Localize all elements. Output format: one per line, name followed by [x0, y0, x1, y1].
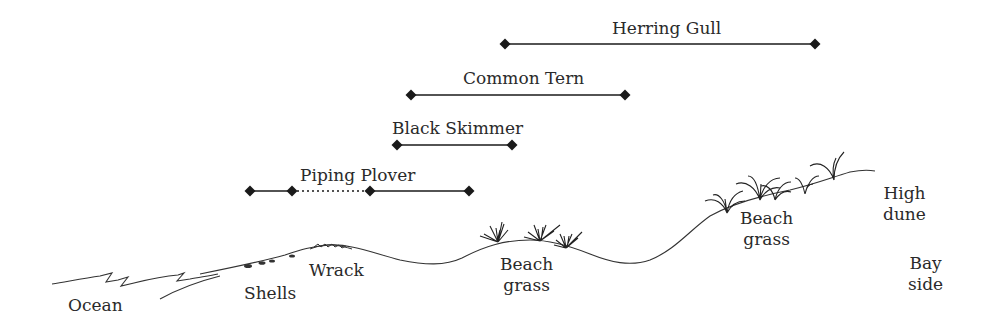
zone-label-line: dune — [883, 204, 926, 225]
beach-profile-diagram — [0, 0, 982, 327]
range-piping-plover — [245, 186, 475, 197]
zone-label-wrack: Wrack — [309, 260, 364, 281]
range-black-skimmer — [392, 140, 518, 151]
wrack-icon — [310, 244, 352, 249]
shells-icon — [244, 254, 295, 268]
zone-label-shells: Shells — [244, 283, 296, 304]
zone-label-line: Beach — [500, 254, 553, 275]
range-common-tern — [406, 90, 631, 101]
range-label-common-tern: Common Tern — [463, 68, 584, 88]
range-label-herring-gull: Herring Gull — [612, 18, 721, 38]
zone-label-line: side — [908, 274, 943, 295]
zone-label-bay-side: Bay side — [908, 253, 943, 296]
zone-label-beach-grass-secondary: Beach grass — [740, 208, 793, 251]
zone-label-line: grass — [500, 275, 553, 296]
range-herring-gull — [500, 39, 821, 50]
zone-label-ocean: Ocean — [68, 295, 123, 316]
zone-label-line: High — [883, 183, 926, 204]
zone-label-line: Beach — [740, 208, 793, 229]
zone-label-line: Bay — [908, 253, 943, 274]
range-label-black-skimmer: Black Skimmer — [392, 118, 523, 138]
zone-label-beach-grass-primary: Beach grass — [500, 254, 553, 297]
zone-label-line: grass — [740, 229, 793, 250]
range-label-piping-plover: Piping Plover — [300, 165, 415, 185]
zone-label-high-dune: High dune — [883, 183, 926, 226]
